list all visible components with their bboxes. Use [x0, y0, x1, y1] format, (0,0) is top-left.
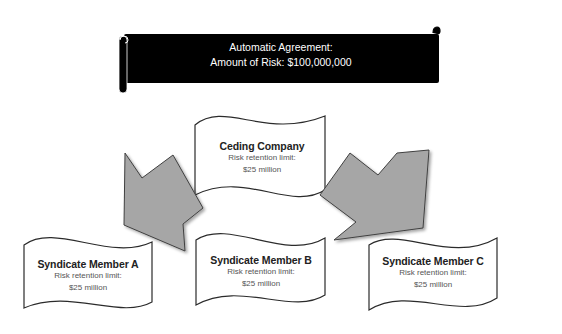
syndicate-member-a-node: Syndicate Member A Risk retention limit:… [8, 258, 168, 294]
node-subtitle: Risk retention limit: [182, 152, 342, 164]
node-amount: $25 million [353, 279, 513, 291]
node-amount: $25 million [8, 282, 168, 294]
banner-amount: Amount of Risk: $100,000,000 [124, 55, 438, 70]
node-amount: $25 million [181, 278, 341, 290]
node-subtitle: Risk retention limit: [353, 267, 513, 279]
node-title: Syndicate Member C [353, 255, 513, 267]
node-title: Syndicate Member A [8, 258, 168, 270]
ceding-company-node: Ceding Company Risk retention limit: $25… [182, 140, 342, 176]
node-subtitle: Risk retention limit: [181, 266, 341, 278]
node-title: Syndicate Member B [181, 254, 341, 266]
syndicate-member-b-node: Syndicate Member B Risk retention limit:… [181, 254, 341, 290]
banner-text: Automatic Agreement: Amount of Risk: $10… [124, 40, 438, 70]
node-title: Ceding Company [182, 140, 342, 152]
node-amount: $25 million [182, 164, 342, 176]
syndicate-member-c-node: Syndicate Member C Risk retention limit:… [353, 255, 513, 291]
banner-right-curl [433, 27, 440, 34]
node-subtitle: Risk retention limit: [8, 270, 168, 282]
banner-title: Automatic Agreement: [124, 40, 438, 55]
